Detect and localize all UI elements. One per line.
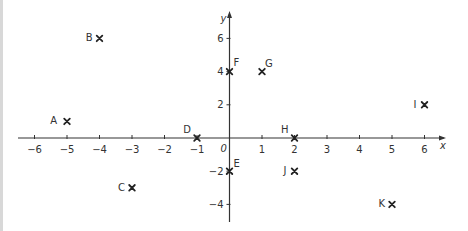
x-tick-label: 1: [259, 144, 265, 155]
coordinate-plane: xy0−6−5−4−3−2−1123456−4−2246ABCDEFGHIJK: [0, 0, 468, 231]
point-label-j: J: [283, 165, 287, 176]
x-tick-label: −4: [92, 144, 107, 155]
point-label-c: C: [118, 182, 125, 193]
x-tick-label: −1: [190, 144, 205, 155]
x-axis-label: x: [439, 140, 446, 151]
y-axis-arrow-icon: [227, 11, 232, 18]
y-tick-label: 6: [217, 33, 223, 44]
point-marker-k-icon: [389, 202, 395, 208]
origin-label: 0: [221, 143, 227, 154]
point-marker-c-icon: [129, 185, 135, 191]
point-label-g: G: [265, 58, 273, 69]
point-marker-a-icon: [64, 119, 70, 125]
x-tick-label: 3: [324, 144, 330, 155]
y-tick-label: 2: [217, 99, 223, 110]
x-tick-label: 5: [389, 144, 395, 155]
point-label-a: A: [50, 115, 57, 126]
point-label-h: H: [281, 124, 289, 135]
point-marker-j-icon: [292, 168, 298, 174]
point-marker-b-icon: [97, 36, 103, 42]
y-axis-label: y: [220, 13, 228, 24]
x-tick-label: −5: [60, 144, 75, 155]
point-label-i: I: [414, 99, 417, 110]
point-marker-g-icon: [259, 69, 265, 75]
point-label-b: B: [86, 32, 93, 43]
point-label-f: F: [234, 57, 240, 68]
x-tick-label: −6: [27, 144, 42, 155]
y-tick-label: −2: [209, 166, 224, 177]
y-tick-label: −4: [209, 199, 224, 210]
x-tick-label: 4: [356, 144, 362, 155]
y-tick-label: 4: [217, 66, 223, 77]
x-tick-label: 6: [421, 144, 427, 155]
point-label-e: E: [234, 158, 240, 169]
point-label-k: K: [378, 198, 385, 209]
point-marker-i-icon: [422, 102, 428, 108]
point-label-d: D: [183, 124, 191, 135]
x-tick-label: −3: [125, 144, 140, 155]
x-tick-label: −2: [157, 144, 172, 155]
x-tick-label: 2: [291, 144, 297, 155]
